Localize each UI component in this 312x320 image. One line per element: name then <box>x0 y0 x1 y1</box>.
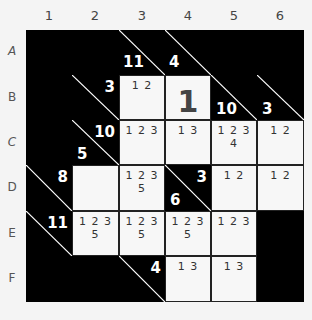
pencil-marks: 1 3 <box>212 260 256 273</box>
pencil-marks: 1 2 3 5 <box>120 169 164 195</box>
pencil-marks: 1 2 3 5 <box>73 215 118 241</box>
clue-cell-b1 <box>26 75 72 120</box>
pencil-marks: 1 2 <box>258 124 303 137</box>
entry-cell-d6[interactable]: 1 2 <box>257 165 304 211</box>
pencil-marks: 1 2 <box>212 169 256 182</box>
down-clue-a4: 4 <box>169 53 179 71</box>
column-label-3: 3 <box>119 8 165 23</box>
clue-cell-f3: 4 <box>119 256 165 302</box>
entry-cell-f4[interactable]: 1 3 <box>165 256 211 302</box>
clue-cell-d1: 8 <box>26 165 72 211</box>
entry-cell-b4[interactable]: 1 <box>165 75 211 120</box>
pencil-marks: 1 2 3 <box>120 124 164 137</box>
row-label-d: D <box>2 180 22 194</box>
entry-cell-d2[interactable] <box>72 165 119 211</box>
clue-cell-d4: 36 <box>165 165 211 211</box>
column-label-5: 5 <box>211 8 257 23</box>
across-clue: 11 <box>47 214 68 232</box>
pencil-marks: 1 2 <box>120 79 164 92</box>
down-clue: 5 <box>77 145 87 163</box>
column-label-2: 2 <box>72 8 118 23</box>
row-label-b: B <box>2 90 22 104</box>
down-clue: 10 <box>216 100 237 118</box>
clue-cell-f1 <box>26 256 72 302</box>
entry-cell-e3[interactable]: 1 2 3 5 <box>119 211 165 256</box>
pencil-marks: 1 2 3 4 <box>212 124 256 150</box>
across-clue: 8 <box>58 168 68 186</box>
clue-cell-f6 <box>257 256 304 302</box>
clue-cell-f2 <box>72 256 119 302</box>
across-clue: 10 <box>94 123 115 141</box>
entry-cell-e5[interactable]: 1 2 3 <box>211 211 257 256</box>
entry-cell-c6[interactable]: 1 2 <box>257 120 304 165</box>
entry-cell-e2[interactable]: 1 2 3 5 <box>72 211 119 256</box>
entry-cell-d3[interactable]: 1 2 3 5 <box>119 165 165 211</box>
column-label-6: 6 <box>257 8 303 23</box>
row-label-a: A <box>2 44 22 58</box>
clue-cell-b5: 10 <box>211 75 257 120</box>
clue-cell-a2 <box>72 30 119 75</box>
kakuro-grid: 31 211031051 2 31 31 2 3 41 281 2 3 5361… <box>26 30 304 302</box>
row-label-c: C <box>2 135 22 149</box>
pencil-marks: 1 3 <box>166 124 210 137</box>
pencil-marks: 1 2 <box>258 169 303 182</box>
clue-cell-c1 <box>26 120 72 165</box>
clue-cell-c2: 105 <box>72 120 119 165</box>
across-clue: 3 <box>197 168 207 186</box>
down-clue-a3: 11 <box>123 53 144 71</box>
entry-cell-c3[interactable]: 1 2 3 <box>119 120 165 165</box>
across-clue: 4 <box>151 259 161 277</box>
across-clue: 3 <box>105 78 115 96</box>
column-label-4: 4 <box>165 8 211 23</box>
entry-cell-d5[interactable]: 1 2 <box>211 165 257 211</box>
entry-cell-b3[interactable]: 1 2 <box>119 75 165 120</box>
clue-cell-a5 <box>211 30 257 75</box>
row-label-f: F <box>2 271 22 285</box>
entry-cell-c5[interactable]: 1 2 3 4 <box>211 120 257 165</box>
entry-cell-e4[interactable]: 1 2 3 5 <box>165 211 211 256</box>
clue-cell-e1: 11 <box>26 211 72 256</box>
column-label-1: 1 <box>26 8 72 23</box>
clue-cell-a6 <box>257 30 304 75</box>
entry-cell-c4[interactable]: 1 3 <box>165 120 211 165</box>
clue-cell-a1 <box>26 30 72 75</box>
clue-cell-b6: 3 <box>257 75 304 120</box>
cell-value: 1 <box>166 84 210 119</box>
clue-cell-b2: 3 <box>72 75 119 120</box>
down-clue: 3 <box>262 100 272 118</box>
down-clue: 6 <box>170 191 180 209</box>
pencil-marks: 1 3 <box>166 260 210 273</box>
entry-cell-f5[interactable]: 1 3 <box>211 256 257 302</box>
clue-cell-e6 <box>257 211 304 256</box>
pencil-marks: 1 2 3 <box>212 215 256 228</box>
row-label-e: E <box>2 226 22 240</box>
pencil-marks: 1 2 3 5 <box>120 215 164 241</box>
pencil-marks: 1 2 3 5 <box>166 215 210 241</box>
